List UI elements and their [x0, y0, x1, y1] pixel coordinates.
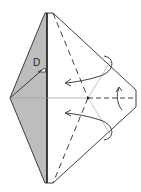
origami-diagram — [0, 0, 141, 192]
point-label-d: D — [33, 58, 40, 68]
center-point — [87, 97, 90, 100]
